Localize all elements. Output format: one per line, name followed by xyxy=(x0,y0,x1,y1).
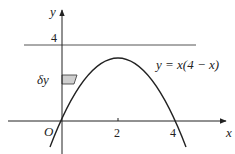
equation-label: y = x(4 − x) xyxy=(154,57,219,72)
graph-canvas: y x O 4 2 4 δy y = x(4 − x) xyxy=(0,0,235,154)
y-axis-label: y xyxy=(48,4,56,19)
delta-y-strip xyxy=(62,75,77,84)
x-tick-label-4: 4 xyxy=(170,126,176,140)
delta-y-label: δy xyxy=(37,72,49,87)
x-tick-label-2: 2 xyxy=(114,126,120,140)
origin-label: O xyxy=(44,124,54,139)
x-axis-label: x xyxy=(225,125,232,140)
y-tick-label-4: 4 xyxy=(51,31,57,45)
